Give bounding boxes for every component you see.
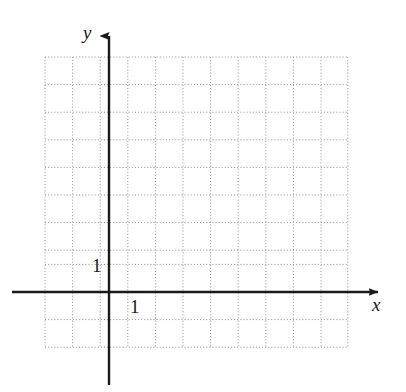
- grid-horizontal-lines: [45, 57, 348, 347]
- plot-svg: [0, 0, 406, 392]
- x-axis-tick-label-1: 1: [130, 297, 140, 316]
- coordinate-grid-figure: y x 1 1: [0, 0, 406, 392]
- y-axis-tick-label-1: 1: [92, 256, 102, 275]
- x-axis-label: x: [372, 295, 380, 314]
- grid-vertical-lines: [45, 57, 348, 348]
- y-axis-label: y: [83, 23, 91, 42]
